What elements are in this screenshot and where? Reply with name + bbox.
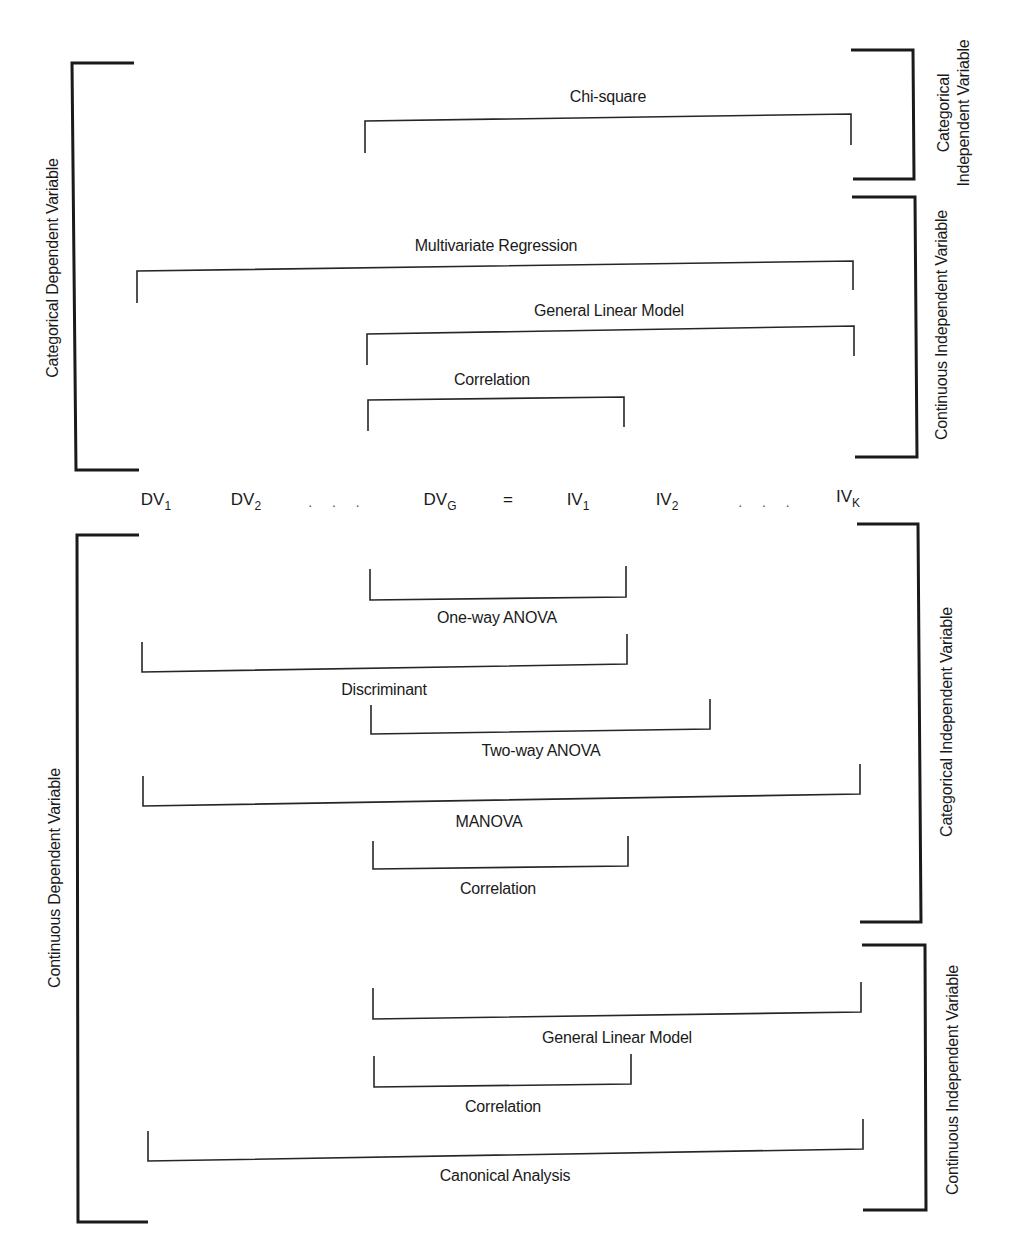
label-continuous-independent-variable-bottom: Continuous Independent Variable bbox=[943, 965, 963, 1195]
label-canonical-analysis: Canonical Analysis bbox=[440, 1167, 571, 1185]
term-dv1: DV1 bbox=[141, 490, 171, 513]
label-general-linear-model-top: General Linear Model bbox=[534, 302, 684, 320]
bracket-general-linear-model-top bbox=[367, 326, 854, 365]
equals-sign: = bbox=[503, 490, 513, 510]
label-categorical-dependent-variable: Categorical Dependent Variable bbox=[43, 158, 63, 378]
label-correlation-bottom-2: Correlation bbox=[465, 1098, 541, 1116]
bracket-correlation-top bbox=[368, 397, 624, 431]
term-iv1: IV1 bbox=[567, 490, 590, 513]
bracket-canonical-analysis bbox=[148, 1119, 863, 1161]
bracket-two-way-anova bbox=[371, 699, 710, 734]
term-dv2: DV2 bbox=[231, 490, 261, 513]
label-two-way-anova: Two-way ANOVA bbox=[482, 742, 601, 760]
label-line-independent-variable: Independent Variable bbox=[954, 40, 974, 187]
bracket-categorical-independent-top bbox=[851, 50, 914, 179]
bracket-one-way-anova bbox=[370, 566, 626, 600]
label-continuous-dependent-variable: Continuous Dependent Variable bbox=[45, 768, 65, 988]
bracket-discriminant bbox=[142, 634, 627, 672]
label-multivariate-regression: Multivariate Regression bbox=[415, 237, 578, 255]
term-ivk: IVK bbox=[836, 487, 860, 510]
term-iv2: IV2 bbox=[656, 490, 679, 513]
label-general-linear-model-bottom: General Linear Model bbox=[542, 1029, 692, 1047]
bracket-general-linear-model-bottom bbox=[373, 982, 861, 1019]
label-correlation-bottom-1: Correlation bbox=[460, 880, 536, 898]
bracket-categorical-dependent bbox=[72, 63, 139, 470]
label-line-categorical: Categorical bbox=[934, 40, 954, 187]
label-categorical-independent-variable-top: Categorical Independent Variable bbox=[934, 40, 974, 187]
bracket-correlation-bottom-2 bbox=[374, 1054, 631, 1087]
ellipsis-dv: . . . bbox=[308, 494, 367, 510]
label-manova: MANOVA bbox=[456, 813, 523, 831]
bracket-categorical-independent-bottom bbox=[857, 524, 921, 922]
label-continuous-independent-variable-top: Continuous Independent Variable bbox=[932, 210, 952, 440]
label-one-way-anova: One-way ANOVA bbox=[437, 609, 557, 627]
bracket-correlation-bottom-1 bbox=[373, 836, 628, 869]
label-chi-square: Chi-square bbox=[570, 88, 646, 106]
ellipsis-iv: . . . bbox=[738, 494, 797, 510]
bracket-multivariate-regression bbox=[137, 261, 853, 303]
bracket-manova bbox=[143, 764, 860, 806]
bracket-chi-square bbox=[365, 114, 851, 153]
label-correlation-top: Correlation bbox=[454, 371, 530, 389]
bracket-continuous-independent-top bbox=[852, 197, 917, 457]
label-discriminant: Discriminant bbox=[341, 681, 427, 699]
label-categorical-independent-variable-bottom: Categorical Independent Variable bbox=[937, 607, 957, 837]
term-dvg: DVG bbox=[424, 490, 457, 513]
bracket-continuous-dependent bbox=[77, 535, 148, 1222]
bracket-continuous-independent-bottom bbox=[862, 945, 926, 1210]
